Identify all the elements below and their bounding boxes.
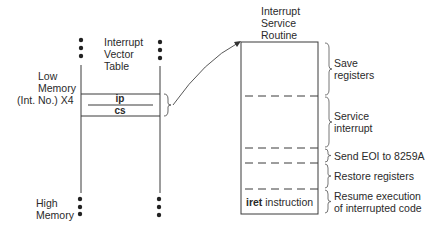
high-memory-line2: Memory <box>36 209 74 221</box>
int-no-label: (Int. No.) X4 <box>17 94 74 106</box>
step-save-registers: Save registers <box>334 57 374 81</box>
isr-title: Interrupt Service Routine <box>261 5 300 41</box>
step-line: interrupt <box>334 122 373 134</box>
ivt-title-line1: Interrupt <box>104 36 143 48</box>
step-line: Save <box>334 57 374 69</box>
isr-title-line1: Interrupt <box>261 5 300 17</box>
high-memory-line1: High <box>36 197 74 209</box>
low-memory-label: Low Memory <box>38 70 76 94</box>
ivt-title-line2: Vector <box>104 48 143 60</box>
step-line: Send EOI to 8259A <box>334 150 424 162</box>
low-memory-line1: Low <box>38 70 76 82</box>
brace-restore-registers <box>325 164 331 188</box>
step-line: of interrupted code <box>334 202 422 214</box>
ip-label: ip <box>110 93 130 104</box>
step-line: Service <box>334 110 373 122</box>
iret-instruction-label: iret instruction <box>246 196 313 208</box>
step-send-eoi: Send EOI to 8259A <box>334 150 424 162</box>
ivt-top-ellipsis-right <box>158 40 162 60</box>
brace-send-eoi <box>325 149 331 162</box>
step-line: Restore registers <box>334 170 414 182</box>
isr-title-line2: Service <box>261 17 300 29</box>
step-service-interrupt: Service interrupt <box>334 110 373 134</box>
iret-rest: instruction <box>262 196 313 208</box>
ivt-bottom-ellipsis-left <box>78 197 82 216</box>
isr-title-line3: Routine <box>261 29 300 41</box>
low-memory-line2: Memory <box>38 82 76 94</box>
iret-keyword: iret <box>246 196 262 208</box>
step-resume-execution: Resume execution of interrupted code <box>334 190 422 214</box>
ivt-title: Interrupt Vector Table <box>104 36 143 72</box>
ivt-top-ellipsis-left <box>79 38 83 58</box>
high-memory-label: High Memory <box>36 197 74 221</box>
isr-box <box>241 42 318 214</box>
step-line: registers <box>334 69 374 81</box>
step-line: Resume execution <box>334 190 422 202</box>
vector-entry-brace <box>164 94 171 116</box>
ivt-bottom-ellipsis-right <box>157 197 161 217</box>
cs-label: cs <box>110 105 130 116</box>
arrowhead-icon <box>234 41 241 47</box>
brace-save-registers <box>325 43 332 95</box>
step-restore-registers: Restore registers <box>334 170 414 182</box>
vector-to-isr-arrow <box>173 43 238 105</box>
ivt-title-line3: Table <box>104 60 143 72</box>
brace-resume-execution <box>325 190 331 213</box>
brace-service-interrupt <box>325 97 332 147</box>
